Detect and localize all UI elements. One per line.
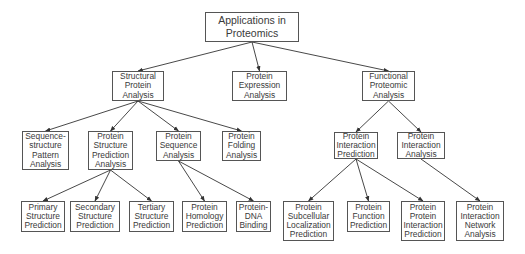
node-label: Protein- DNA Binding xyxy=(239,203,268,231)
node-label: Protein Structure Prediction Analysis xyxy=(92,132,129,169)
node-protein-protein-interaction-prediction: Protein Protein Interaction Prediction xyxy=(401,201,445,241)
node-protein-expression-analysis: Protein Expression Analysis xyxy=(232,71,287,101)
node-secondary-structure-prediction: Secondary Structure Prediction xyxy=(70,201,120,232)
node-protein-subcellular-localization-prediction: Protein Subcellular Localization Predict… xyxy=(283,201,334,241)
node-protein-structure-prediction-analysis: Protein Structure Prediction Analysis xyxy=(88,131,133,170)
node-label: Protein Protein Interaction Prediction xyxy=(403,203,442,240)
node-protein-homology-prediction: Protein Homology Prediction xyxy=(182,201,227,232)
node-protein-interaction-network-analysis: Protein Interaction Network Analysis xyxy=(456,201,504,241)
node-label: Protein Subcellular Localization Predict… xyxy=(286,203,330,240)
node-label: Protein Interaction Network Analysis xyxy=(460,203,499,240)
node-structural-protein-analysis: Structural Protein Analysis xyxy=(112,71,164,101)
node-primary-structure-prediction: Primary Structure Prediction xyxy=(21,201,65,232)
node-applications-in-proteomics: Applications in Proteomics xyxy=(205,12,299,42)
arrow-spa-to-psa xyxy=(138,101,179,131)
proteomics-applications-diagram: Applications in Proteomics Structural Pr… xyxy=(0,0,525,254)
arrow-fpa-to-pip xyxy=(356,101,389,132)
arrow-psa-to-php xyxy=(179,161,205,201)
node-tertiary-structure-prediction: Tertiary Structure Prediction xyxy=(129,201,174,232)
node-label: Primary Structure Prediction xyxy=(24,203,61,231)
node-label: Secondary Structure Prediction xyxy=(75,203,115,231)
arrow-pspa-to-tsp xyxy=(111,170,152,201)
node-label: Protein Function Prediction xyxy=(350,203,387,231)
node-label: Protein Interaction Analysis xyxy=(401,132,440,160)
arrow-root-to-fpa xyxy=(252,42,389,71)
arrow-pip-to-pslp xyxy=(309,159,357,201)
node-label: Sequence- structure Pattern Analysis xyxy=(25,132,66,169)
node-label: Structural Protein Analysis xyxy=(120,72,156,100)
arrow-spa-to-pfa xyxy=(138,101,242,131)
node-protein-interaction-analysis: Protein Interaction Analysis xyxy=(397,132,445,159)
arrow-root-to-pea xyxy=(252,42,260,71)
arrow-pia-to-pina xyxy=(421,159,480,201)
node-label: Protein Homology Prediction xyxy=(186,203,224,231)
arrow-pip-to-ppip xyxy=(356,159,423,201)
node-sequence-structure-pattern-analysis: Sequence- structure Pattern Analysis xyxy=(22,131,69,170)
node-label: Protein Expression Analysis xyxy=(239,72,280,100)
node-protein-folding-analysis: Protein Folding Analysis xyxy=(222,131,261,161)
node-label: Applications in Proteomics xyxy=(218,14,286,40)
node-label: Tertiary Structure Prediction xyxy=(133,203,170,231)
node-protein-function-prediction: Protein Function Prediction xyxy=(347,201,390,232)
node-label: Protein Interaction Prediction xyxy=(336,132,375,160)
arrow-pspa-to-ssp xyxy=(95,170,111,201)
node-protein-interaction-prediction: Protein Interaction Prediction xyxy=(334,132,378,159)
arrow-psa-to-pdb xyxy=(179,161,254,201)
node-label: Functional Proteomic Analysis xyxy=(369,72,408,100)
node-protein-dna-binding: Protein- DNA Binding xyxy=(236,201,271,232)
arrow-pspa-to-psp1 xyxy=(43,170,111,201)
arrow-root-to-spa xyxy=(138,42,252,71)
node-functional-proteomic-analysis: Functional Proteomic Analysis xyxy=(362,71,415,101)
arrow-fpa-to-pia xyxy=(389,101,422,132)
node-label: Protein Sequence Analysis xyxy=(160,132,198,160)
node-label: Protein Folding Analysis xyxy=(226,132,257,160)
node-protein-sequence-analysis: Protein Sequence Analysis xyxy=(156,131,201,161)
